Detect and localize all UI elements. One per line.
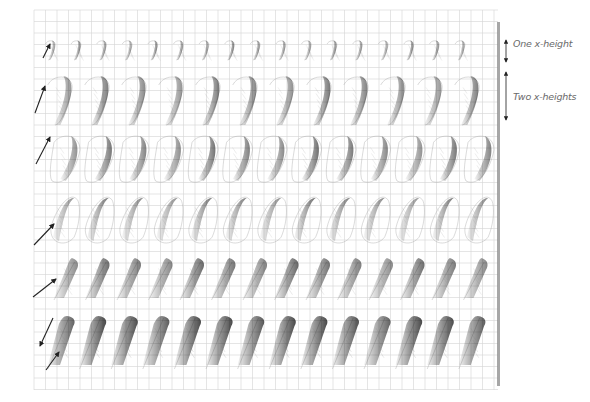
stroke-letter: [455, 40, 468, 60]
stroke-letter: [122, 40, 135, 60]
row-5-diagonals: [54, 258, 488, 300]
stroke-letter: [353, 40, 366, 60]
vertical-ruler: [497, 22, 500, 386]
stroke-letter: [306, 258, 330, 300]
stroke-letter: [85, 76, 109, 125]
stroke-letter: [188, 136, 218, 182]
stroke-letter: [432, 258, 456, 300]
stroke-letter: [258, 197, 287, 243]
stroke-letter: [148, 40, 161, 60]
stroke-letter: [225, 40, 238, 60]
direction-arrow-icon: [35, 86, 45, 113]
stroke-letter: [292, 136, 322, 182]
two-x-heights-label: Two x-heights: [513, 91, 576, 102]
direction-arrow-icon: [36, 137, 50, 164]
stroke-letter: [143, 316, 170, 369]
stroke-letter: [71, 40, 84, 60]
stroke-letter: [233, 76, 257, 125]
stroke-letter: [455, 76, 479, 125]
stroke-letter: [361, 197, 390, 243]
stroke-letter: [429, 40, 442, 60]
one-x-height-label: One x-height: [513, 38, 572, 49]
direction-arrow-icon: [34, 224, 54, 245]
stroke-letter: [223, 136, 253, 182]
stroke-letter: [111, 316, 138, 369]
stroke-letter: [301, 40, 314, 60]
stroke-letter: [430, 197, 459, 243]
stroke-letter: [338, 258, 362, 300]
stroke-letter: [206, 316, 233, 369]
stroke-letter: [275, 258, 299, 300]
stroke-letter: [250, 40, 263, 60]
stroke-letter: [326, 136, 356, 182]
stroke-letter: [361, 136, 391, 182]
stroke-letter: [364, 316, 391, 369]
stroke-letter: [369, 258, 393, 300]
stroke-letter: [54, 258, 78, 300]
row-1-small-hooks: [45, 40, 467, 60]
stroke-letter: [50, 136, 80, 182]
stroke-letter: [120, 197, 149, 243]
stroke-letter: [465, 197, 494, 243]
stroke-letter: [430, 136, 460, 182]
stroke-rows: [45, 40, 494, 369]
stroke-letter: [257, 136, 287, 182]
stroke-letter: [327, 40, 340, 60]
stroke-letter: [276, 40, 289, 60]
stroke-letter: [189, 197, 218, 243]
stroke-letter: [51, 197, 80, 243]
stroke-letter: [196, 76, 220, 125]
stroke-letter: [292, 197, 321, 243]
stroke-letter: [427, 316, 454, 369]
row-3-loops: [50, 136, 494, 182]
height-ruler: [497, 22, 506, 386]
row-4-ovals: [51, 197, 494, 243]
stroke-letter: [243, 258, 267, 300]
stroke-letter: [86, 258, 110, 300]
stroke-letter: [85, 136, 115, 182]
row-2-tall-hooks: [48, 76, 479, 125]
stroke-letter: [159, 76, 183, 125]
stroke-letter: [464, 258, 488, 300]
stroke-letter: [418, 76, 442, 125]
stroke-letter: [80, 316, 107, 369]
stroke-letter: [173, 40, 186, 60]
stroke-letter: [199, 40, 212, 60]
stroke-letter: [174, 316, 201, 369]
stroke-letter: [459, 316, 486, 369]
stroke-letter: [212, 258, 236, 300]
stroke-letter: [404, 40, 417, 60]
stroke-letter: [332, 316, 359, 369]
stroke-letter: [270, 76, 294, 125]
stroke-letter: [396, 197, 425, 243]
stroke-letter: [464, 136, 494, 182]
stroke-letter: [238, 316, 265, 369]
stroke-letter: [154, 197, 183, 243]
stroke-letter: [327, 197, 356, 243]
stroke-letter: [381, 76, 405, 125]
stroke-letter: [378, 40, 391, 60]
direction-arrow-icon: [33, 279, 56, 297]
stroke-letter: [307, 76, 331, 125]
stroke-letter: [223, 197, 252, 243]
stroke-letter: [395, 136, 425, 182]
direction-arrows: [33, 44, 59, 370]
stroke-letter: [396, 316, 423, 369]
stroke-letter: [122, 76, 146, 125]
stroke-letter: [269, 316, 296, 369]
stroke-letter: [301, 316, 328, 369]
stroke-letter: [401, 258, 425, 300]
practice-sheet: [0, 0, 590, 402]
row-6-bars: [48, 316, 485, 369]
stroke-letter: [119, 136, 149, 182]
stroke-letter: [85, 197, 114, 243]
stroke-letter: [154, 136, 184, 182]
